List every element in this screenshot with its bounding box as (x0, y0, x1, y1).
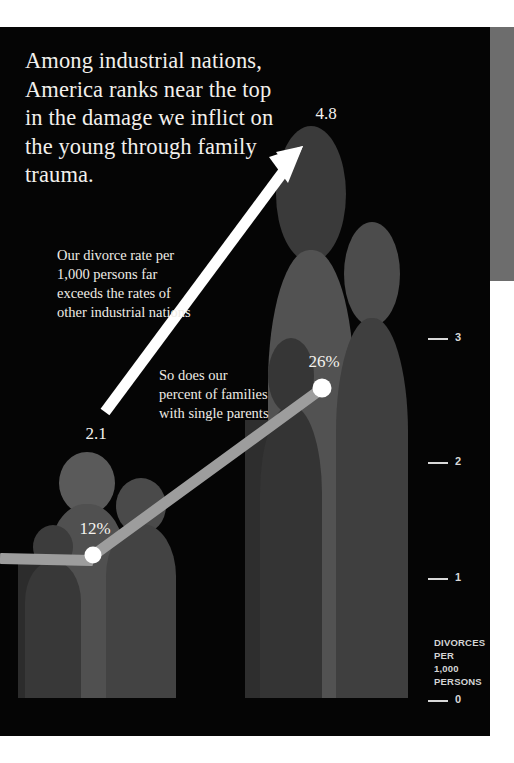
data-point-single-parent-high (313, 379, 332, 398)
axis-title-line-2: PER (434, 649, 485, 662)
axis-tick-label-1: 1 (455, 571, 461, 583)
headline-text: Among industrial nations, America ranks … (25, 47, 285, 190)
value-label-divorce-high: 4.8 (304, 104, 348, 124)
figure-body (336, 318, 408, 698)
figure-body (106, 524, 176, 698)
axis-tick-mark-0 (428, 700, 448, 702)
axis-tick-label-2: 2 (455, 455, 461, 467)
axis-tick-mark-3 (428, 338, 448, 340)
figure-left-adult-second (106, 478, 176, 698)
figure-body (260, 406, 322, 698)
figure-head (344, 222, 400, 326)
value-label-single-low: 12% (70, 519, 120, 539)
axis-tick-label-0: 0 (455, 693, 461, 705)
axis-tick-label-3: 3 (455, 331, 461, 343)
data-point-single-parent-low (85, 547, 102, 564)
caption-divorce-rate: Our divorce rate per 1,000 persons far e… (57, 246, 197, 321)
infographic-canvas: Among industrial nations, America ranks … (0, 0, 514, 763)
figure-right-adult-second (336, 222, 408, 698)
axis-title: DIVORCES PER 1,000 PERSONS (434, 636, 485, 688)
figure-body (25, 561, 81, 698)
axis-title-line-4: PERSONS (434, 675, 485, 688)
value-label-single-high: 26% (299, 352, 349, 372)
caption-single-parents: So does our percent of families with sin… (159, 366, 269, 423)
axis-tick-mark-1 (428, 578, 448, 580)
axis-title-line-1: DIVORCES (434, 636, 485, 649)
axis-tick-mark-2 (428, 462, 448, 464)
value-label-divorce-low: 2.1 (75, 424, 117, 444)
figure-left-child (25, 525, 81, 698)
axis-title-line-3: 1,000 (434, 662, 485, 675)
black-notch-block (430, 129, 490, 224)
single-parent-line-segment-left (0, 553, 93, 566)
